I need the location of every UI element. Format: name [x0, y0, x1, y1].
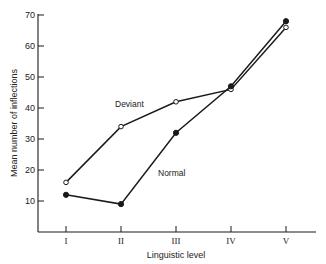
open-circle-marker-icon: [284, 25, 289, 30]
x-axis-title: Linguistic level: [147, 250, 206, 260]
x-tick-label: I: [65, 236, 68, 246]
open-circle-marker-icon: [64, 180, 69, 185]
series-label-deviant: Deviant: [115, 99, 144, 109]
y-tick-label: 50: [25, 72, 35, 82]
open-circle-marker-icon: [119, 124, 124, 129]
filled-circle-marker-icon: [173, 130, 178, 135]
x-tick-label: III: [172, 236, 181, 246]
open-circle-marker-icon: [174, 100, 179, 105]
x-axis-ticks: IIIIIIIVV: [65, 226, 290, 246]
y-tick-label: 70: [25, 10, 35, 20]
filled-circle-marker-icon: [63, 192, 68, 197]
axes: [38, 14, 316, 232]
series-line-deviant: [66, 27, 286, 182]
y-tick-label: 20: [25, 165, 35, 175]
filled-circle-marker-icon: [283, 19, 288, 24]
y-axis-ticks: 10203040506070: [25, 10, 44, 206]
series-label-normal: Normal: [158, 168, 186, 178]
y-tick-label: 60: [25, 41, 35, 51]
y-axis-title: Mean number of inflections: [9, 68, 19, 177]
x-tick-label: V: [283, 236, 290, 246]
series-markers: [63, 19, 288, 207]
filled-circle-marker-icon: [228, 84, 233, 89]
y-tick-label: 40: [25, 103, 35, 113]
line-chart: 10203040506070 IIIIIIIVV DeviantNormal M…: [0, 0, 326, 264]
y-tick-label: 10: [25, 196, 35, 206]
x-tick-label: IV: [226, 236, 236, 246]
x-tick-label: II: [118, 236, 124, 246]
filled-circle-marker-icon: [118, 202, 123, 207]
chart-canvas: 10203040506070 IIIIIIIVV DeviantNormal M…: [0, 0, 326, 264]
y-tick-label: 30: [25, 134, 35, 144]
